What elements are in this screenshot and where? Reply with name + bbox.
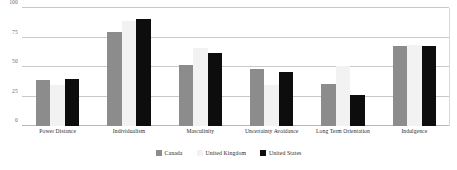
bar xyxy=(50,85,65,126)
category-label: Uncertainty Avoidance xyxy=(245,128,298,134)
bar xyxy=(250,69,265,126)
legend-swatch-icon xyxy=(156,150,162,156)
legend-entry[interactable]: Canada xyxy=(156,150,183,156)
y-tick-label-100: 100 xyxy=(9,0,18,5)
bar xyxy=(407,45,422,126)
bar xyxy=(193,48,208,126)
bar xyxy=(279,72,294,126)
category-label: Power Distance xyxy=(39,128,76,134)
bar-group xyxy=(379,8,450,126)
bar-group xyxy=(307,8,378,126)
bar-group-inner xyxy=(107,8,151,126)
bar-group-inner xyxy=(36,8,80,126)
bar xyxy=(136,19,151,126)
legend-label: Canada xyxy=(165,150,183,156)
legend-entry[interactable]: United Kingdom xyxy=(197,150,247,156)
x-axis-category-labels: Power DistanceIndividualismMasculinityUn… xyxy=(22,128,450,140)
bar-group-inner xyxy=(250,8,294,126)
y-tick-label-50: 50 xyxy=(12,58,18,64)
bar-group-inner xyxy=(393,8,437,126)
y-tick-label-0: 0 xyxy=(15,117,18,123)
bar xyxy=(336,66,351,126)
bar-group xyxy=(165,8,236,126)
bar xyxy=(321,84,336,126)
chart-legend: CanadaUnited KingdomUnited States xyxy=(0,150,457,156)
bar xyxy=(122,21,137,126)
bar-group xyxy=(93,8,164,126)
bar xyxy=(65,79,80,126)
bar xyxy=(208,53,223,126)
bar xyxy=(36,80,51,126)
bar xyxy=(393,46,408,126)
category-label: Long Term Orientation xyxy=(316,128,370,134)
bar-chart-figure: 0255075100 Power DistanceIndividualismMa… xyxy=(0,0,457,170)
bar xyxy=(422,46,437,126)
category-label: Masculinity xyxy=(186,128,214,134)
legend-label: United Kingdom xyxy=(206,150,247,156)
category-label: Individualism xyxy=(113,128,145,134)
bar-group xyxy=(22,8,93,126)
bar xyxy=(264,85,279,126)
category-label: Indulgence xyxy=(401,128,427,134)
bars-layer xyxy=(22,8,450,126)
legend-swatch-icon xyxy=(260,150,266,156)
legend-swatch-icon xyxy=(197,150,203,156)
bar-group-inner xyxy=(321,8,365,126)
legend-entry[interactable]: United States xyxy=(260,150,301,156)
y-axis-tick-labels: 0255075100 xyxy=(0,8,22,126)
legend-label: United States xyxy=(269,150,301,156)
bar-group-inner xyxy=(179,8,223,126)
bar-group xyxy=(236,8,307,126)
bar xyxy=(350,95,365,126)
y-tick-label-25: 25 xyxy=(12,88,18,94)
bar xyxy=(107,32,122,126)
bar xyxy=(179,65,194,126)
y-tick-label-75: 75 xyxy=(12,29,18,35)
